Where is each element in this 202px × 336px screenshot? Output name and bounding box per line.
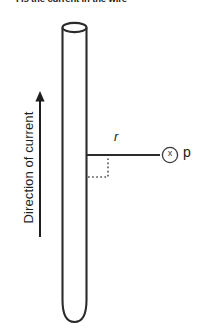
radius-label: r	[114, 129, 118, 144]
into-page-x-icon: x	[163, 148, 177, 158]
diagram-canvas: I is the current in the wire Direction o…	[0, 0, 202, 336]
current-direction-label: Direction of current	[21, 88, 36, 248]
right-angle-marker-path	[88, 156, 108, 177]
wire-cylinder-body	[63, 28, 87, 323]
current-arrow-head	[35, 91, 44, 102]
point-p-label: p	[183, 144, 191, 160]
wire-cylinder-top-ellipse	[63, 23, 87, 32]
